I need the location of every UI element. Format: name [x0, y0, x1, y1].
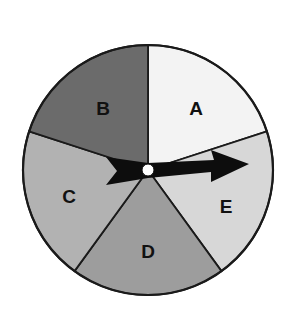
- spinner-hub: [142, 164, 154, 176]
- sector-label-c: C: [62, 186, 76, 207]
- sector-label-a: A: [189, 98, 203, 119]
- spinner-diagram: A E D C B: [0, 0, 289, 323]
- sector-label-b: B: [96, 98, 110, 119]
- sector-label-e: E: [220, 196, 233, 217]
- sector-label-d: D: [141, 241, 155, 262]
